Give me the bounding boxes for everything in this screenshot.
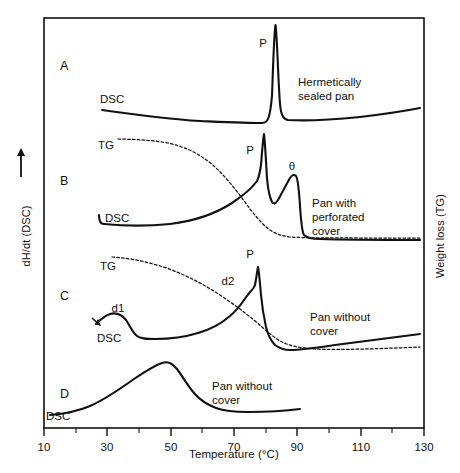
panel-c-dsc-label: DSC [97,332,121,344]
x-axis-title: Temperature (°C) [44,448,424,460]
panel-b-dsc-label: DSC [105,212,129,224]
panel-b-theta-label: θ [289,160,295,172]
panel-a-dsc-label: DSC [100,93,124,105]
panel-d-annotation-line1: Pan without [212,380,273,392]
panel-b-annotation-line3: cover [312,225,340,237]
panel-b: B P θ TG DSC Pan with perforated cover [60,134,420,240]
panel-a-annotation-line2: sealed pan [298,90,354,102]
panel-d: D DSC Pan without cover [46,362,300,422]
panel-a-peak-label: P [259,37,267,49]
panel-c: C P d2 d1 TG DSC Pan without cover [60,248,420,350]
panel-c-tg-curve [112,257,420,349]
panel-b-annotation-line2: perforated [312,211,364,223]
panel-a-letter: A [60,59,69,73]
panel-c-dsc-curve [96,267,420,350]
panel-c-d2-label: d2 [222,275,235,287]
panel-c-annotation-line1: Pan without [310,311,371,323]
panel-b-peak-label: P [246,144,254,156]
panel-b-letter: B [60,174,68,188]
panel-c-d1-label: d1 [112,302,125,314]
panel-d-letter: D [60,387,69,401]
panel-b-tg-label: TG [98,139,114,151]
panel-a: A P DSC Hermetically sealed pan [60,25,420,123]
panel-a-annotation-line1: Hermetically [298,76,362,88]
panel-d-dsc-label: DSC [46,410,70,422]
panel-d-annotation-line2: cover [212,394,240,406]
y-axis-right-title: Weight loss (TG) [434,166,446,306]
x-axis-major-ticks [44,428,424,436]
y-axis-left-title: dH/dt (DSC) [20,166,32,306]
panel-c-peak-label: P [246,248,254,260]
panel-c-letter: C [60,289,69,303]
panel-c-annotation-line2: cover [310,325,338,337]
dsc-tg-thermogram-figure: dH/dt (DSC) Weight loss (TG) Temperature… [0,0,460,473]
y-axis-direction-arrow-icon [14,148,28,178]
panel-b-dsc-curve [99,134,420,240]
panel-b-annotation-line1: Pan with [312,197,356,209]
panel-c-tg-label: TG [100,260,116,272]
plot-canvas: 10 30 50 70 90 110 130 A P DSC Hermetica… [0,0,460,473]
